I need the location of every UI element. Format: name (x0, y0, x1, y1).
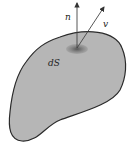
surface-element-label: dS (48, 58, 60, 68)
surface-diagram: n v dS (0, 0, 135, 145)
velocity-label: v (103, 19, 108, 29)
normal-label: n (65, 12, 71, 22)
